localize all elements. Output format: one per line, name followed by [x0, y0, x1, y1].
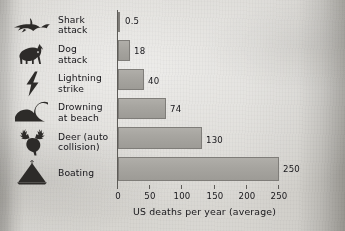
deer-head-icon — [12, 128, 52, 156]
bar-dog — [118, 40, 130, 61]
category-label-deer: Deer (auto collision) — [58, 132, 108, 153]
shark-icon — [12, 11, 52, 39]
category-row-dog: Dog attack — [12, 41, 120, 68]
bar-value-deer: 130 — [206, 135, 223, 145]
x-tick-label-100: 100 — [173, 191, 190, 201]
bar-value-drowning: 74 — [170, 104, 181, 114]
category-label-deer-drowning: Drowning at beach — [58, 102, 103, 123]
horizontal-bar-chart: Shark attack Dog attack Lightning strike — [0, 0, 345, 231]
x-tick-200 — [246, 185, 247, 189]
x-tick-label-250: 250 — [270, 191, 287, 201]
plot-area: 0.5 18 40 74 130 250 0 50 100 150 200 25… — [117, 10, 302, 185]
wave-icon — [12, 99, 52, 127]
bar-value-lightning: 40 — [148, 76, 159, 86]
category-label-boating: Boating — [58, 168, 94, 178]
category-row-boating: Boating — [12, 158, 120, 188]
x-tick-label-50: 50 — [144, 191, 155, 201]
category-row-drowning: Drowning at beach — [12, 99, 120, 126]
x-tick-100 — [181, 185, 182, 189]
x-tick-150 — [214, 185, 215, 189]
x-tick-label-150: 150 — [206, 191, 223, 201]
bar-value-shark: 0.5 — [125, 16, 139, 26]
category-label-dog: Dog attack — [58, 44, 87, 65]
x-tick-label-200: 200 — [238, 191, 255, 201]
bar-drowning — [118, 98, 166, 119]
x-axis-label: US deaths per year (average) — [117, 206, 292, 217]
category-row-deer: Deer (auto collision) — [12, 127, 120, 157]
bar-boating — [118, 157, 279, 181]
x-tick-250 — [278, 185, 279, 189]
category-label-lightning: Lightning strike — [58, 73, 102, 94]
x-tick-label-0: 0 — [115, 191, 121, 201]
lightning-bolt-icon — [12, 70, 52, 98]
chart-page: Shark attack Dog attack Lightning strike — [0, 0, 345, 231]
bar-shark — [118, 12, 120, 32]
x-tick-50 — [149, 185, 150, 189]
x-tick-0 — [117, 185, 118, 189]
bar-deer — [118, 127, 202, 149]
category-label-shark: Shark attack — [58, 15, 87, 36]
category-row-lightning: Lightning strike — [12, 70, 120, 97]
bar-value-boating: 250 — [283, 164, 300, 174]
dog-icon — [12, 41, 52, 69]
bar-lightning — [118, 69, 144, 90]
category-row-shark: Shark attack — [12, 12, 120, 38]
sailboat-icon — [12, 159, 52, 187]
bar-value-dog: 18 — [134, 46, 145, 56]
